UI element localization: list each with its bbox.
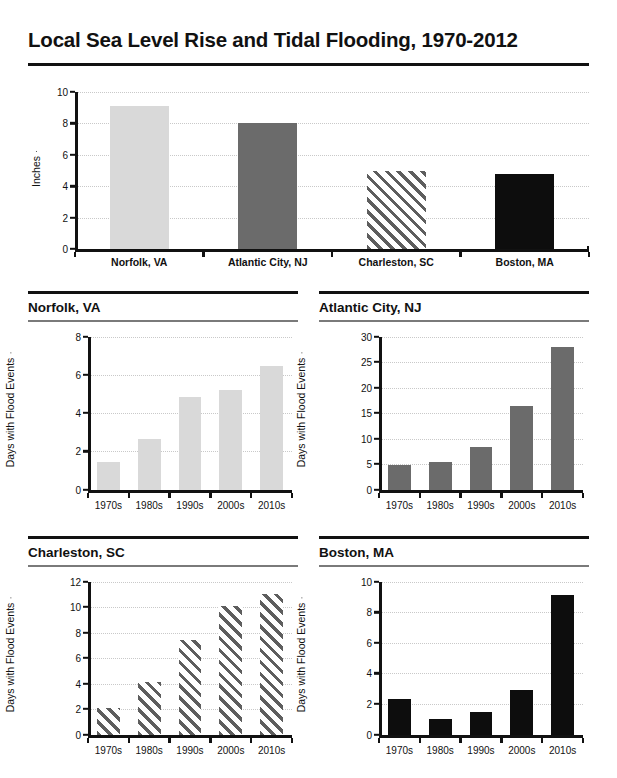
x-tick-label: 1970s (379, 745, 420, 756)
y-axis-label-text: Days with Flood Events (5, 358, 17, 468)
bar (97, 462, 120, 490)
y-tick-label: 4 (75, 678, 81, 689)
x-tick-mark (168, 493, 170, 498)
x-tick-mark (459, 493, 461, 498)
x-tick-label: 1980s (129, 500, 170, 511)
x-tick-mark (419, 493, 421, 498)
x-tick-mark (87, 738, 89, 743)
y-tick-label: 8 (75, 331, 81, 342)
y-tick-label: 10 (70, 602, 81, 613)
y-tick-label: 12 (70, 576, 81, 587)
y-tick-label: 4 (75, 408, 81, 419)
x-tick-mark (209, 493, 211, 498)
bar (495, 174, 554, 249)
bar (470, 712, 493, 735)
y-axis-label-rule (301, 353, 302, 354)
category-label: Charleston, SC (332, 256, 461, 268)
panel-charleston: Charleston, SC Days with Flood Events024… (28, 536, 298, 761)
y-axis-label-rule (36, 151, 37, 152)
x-tick-mark (250, 738, 252, 743)
y-axis-label-text: Days with Flood Events (5, 603, 17, 713)
panel-title: Atlantic City, NJ (319, 294, 589, 320)
bar (138, 439, 161, 490)
y-tick-label: 15 (361, 408, 372, 419)
bar (510, 406, 533, 489)
x-tick-mark (419, 738, 421, 743)
y-tick-label: 2 (366, 698, 372, 709)
gridline (88, 582, 292, 583)
bar (388, 465, 411, 489)
page-title: Local Sea Level Rise and Tidal Flooding,… (28, 0, 589, 52)
x-tick-label: 1970s (379, 500, 420, 511)
y-tick-label: 0 (75, 484, 81, 495)
x-tick-mark (582, 493, 584, 498)
panel-title: Boston, MA (319, 539, 589, 565)
x-axis-end-cap (587, 246, 589, 251)
y-axis-label: Inches (28, 88, 54, 249)
y-tick-label: 10 (57, 87, 68, 98)
top-category-labels: Norfolk, VAAtlantic City, NJCharleston, … (75, 256, 589, 268)
x-tick-label: 2010s (542, 500, 583, 511)
y-axis-label: Days with Flood Events (319, 576, 359, 735)
bar (138, 682, 161, 734)
y-axis-spine (88, 582, 91, 737)
y-axis-label: Days with Flood Events (319, 331, 359, 490)
x-tick-label: 2000s (501, 500, 542, 511)
x-axis-spine (379, 490, 583, 493)
chart-page: Local Sea Level Rise and Tidal Flooding,… (0, 0, 617, 778)
bar (238, 123, 297, 249)
bar (367, 171, 426, 250)
y-axis-spine (379, 337, 382, 492)
x-axis-spine (88, 490, 292, 493)
panel-boston: Boston, MA Days with Flood Events0246810… (319, 536, 589, 761)
x-tick-labels: 1970s1980s1990s2000s2010s (88, 745, 292, 756)
charleston-plot-area: Days with Flood Events0246810121970s1980… (28, 576, 298, 761)
x-tick-label: 2010s (251, 745, 292, 756)
y-tick-label: 2 (75, 446, 81, 457)
x-tick-mark (291, 493, 293, 498)
y-axis-label-rule (10, 598, 11, 599)
x-tick-mark (209, 738, 211, 743)
y-tick-label: 30 (361, 331, 372, 342)
y-tick-label: 10 (361, 433, 372, 444)
x-tick-label: 1990s (170, 745, 211, 756)
y-tick-label: 0 (366, 484, 372, 495)
x-tick-mark (500, 493, 502, 498)
panel-rule-bottom (319, 565, 589, 567)
bar (219, 606, 242, 735)
y-axis-label-rule (10, 353, 11, 354)
x-tick-label: 1970s (88, 745, 129, 756)
x-tick-mark (87, 493, 89, 498)
y-tick-label: 4 (62, 181, 68, 192)
x-tick-mark (168, 738, 170, 743)
bar (97, 708, 120, 735)
bar (179, 640, 202, 734)
y-tick-label: 10 (361, 576, 372, 587)
panel-atlantic-city: Atlantic City, NJ Days with Flood Events… (319, 291, 589, 516)
y-tick-label: 2 (62, 212, 68, 223)
y-tick-label: 6 (75, 369, 81, 380)
y-tick-label: 20 (361, 382, 372, 393)
top-plot-area: Inches0246810 (28, 88, 589, 253)
y-tick-label: 0 (366, 729, 372, 740)
bar (551, 347, 574, 489)
panel-rule-bottom (28, 320, 298, 322)
x-tick-label: 2000s (501, 745, 542, 756)
x-tick-mark (541, 738, 543, 743)
y-tick-label: 25 (361, 357, 372, 368)
bar (429, 719, 452, 735)
y-tick-label: 0 (62, 244, 68, 255)
x-tick-labels: 1970s1980s1990s2000s2010s (379, 745, 583, 756)
gridline (88, 337, 292, 338)
y-axis-label-rule (301, 598, 302, 599)
gridline (379, 337, 583, 338)
y-axis-label: Days with Flood Events (28, 576, 68, 735)
y-tick-label: 2 (75, 704, 81, 715)
x-tick-label: 1990s (170, 500, 211, 511)
x-tick-mark (582, 738, 584, 743)
bar (179, 397, 202, 490)
y-tick-label: 4 (366, 668, 372, 679)
panel-title: Charleston, SC (28, 539, 298, 565)
x-tick-label: 1990s (461, 500, 502, 511)
x-tick-mark (128, 738, 130, 743)
